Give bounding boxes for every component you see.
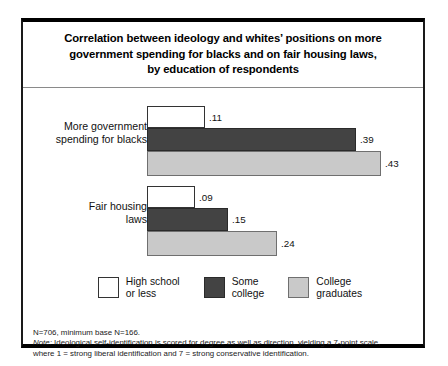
title-line-1: Correlation between ideology and whites’… — [35, 31, 411, 47]
group-label-0: More government spending for blacks — [0, 120, 147, 147]
bars-group-0: .11 .39 .43 — [147, 106, 417, 176]
bar-row: .43 — [147, 151, 417, 176]
bar-row: .15 — [147, 208, 417, 231]
bar-value: .11 — [205, 111, 222, 122]
bar-row: .24 — [147, 231, 417, 256]
bars-group-1: .09 .15 .24 — [147, 186, 417, 256]
legend-swatch-icon — [204, 277, 225, 298]
footnote-note-label: Note: — [33, 338, 52, 347]
legend-swatch-icon — [288, 277, 309, 298]
footnote-sample-size: N=706, minimum base N=166. — [33, 328, 415, 339]
bar-value: .15 — [228, 214, 246, 225]
chart-legend: High school or less Some college College… — [23, 276, 423, 301]
footnote-note-text: Ideological self-identification is score… — [52, 338, 381, 347]
legend-item-some-college: Some college — [204, 276, 265, 301]
bar-college-graduates — [147, 151, 381, 176]
plot-area: More government spending for blacks .11 … — [23, 88, 423, 345]
bar-row: .09 — [147, 186, 417, 208]
bar-value: .24 — [277, 238, 295, 249]
bar-some-college — [147, 128, 356, 151]
legend-label: Some college — [232, 276, 265, 301]
group-label-1: Fair housing laws — [0, 200, 147, 227]
footnote-scale-line: where 1 = strong liberal identification … — [33, 349, 415, 360]
title-line-3: by education of respondents — [35, 62, 411, 78]
bar-value: .39 — [356, 134, 374, 145]
bar-college-graduates — [147, 231, 277, 256]
legend-item-college-graduates: College graduates — [288, 276, 362, 301]
bar-some-college — [147, 208, 228, 231]
legend-item-high-school-or-less: High school or less — [98, 276, 180, 301]
legend-label: College graduates — [316, 276, 362, 301]
legend-swatch-icon — [98, 277, 119, 298]
bar-high-school-or-less — [147, 106, 205, 128]
chart-title: Correlation between ideology and whites’… — [23, 22, 423, 88]
bar-value: .09 — [195, 191, 213, 202]
bar-row: .11 — [147, 106, 417, 128]
bar-high-school-or-less — [147, 186, 195, 208]
legend-label: High school or less — [126, 276, 180, 301]
bar-value: .43 — [381, 158, 399, 169]
title-line-2: government spending for blacks and on fa… — [35, 47, 411, 63]
chart-footnote: N=706, minimum base N=166. Note: Ideolog… — [33, 328, 415, 360]
figure-frame: Correlation between ideology and whites’… — [21, 18, 425, 348]
bar-row: .39 — [147, 128, 417, 151]
footnote-note-line: Note: Ideological self-identification is… — [33, 338, 415, 349]
